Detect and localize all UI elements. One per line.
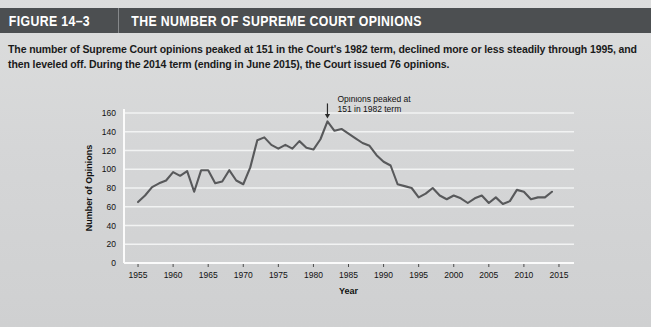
x-tick-label: 2005 [479,270,498,280]
figure-header-bar: FIGURE 14–3 THE NUMBER OF SUPREME COURT … [0,8,651,33]
x-tick-label: 2015 [550,270,569,280]
y-tick-label: 120 [102,146,116,156]
x-tick-label: 1975 [269,270,288,280]
x-tick-label: 1965 [199,270,218,280]
x-tick-label: 1990 [374,270,393,280]
x-tick-label: 1995 [409,270,428,280]
gridlines-group [124,113,574,263]
chart-area: 020406080100120140160 195519601965197019… [0,96,651,296]
y-tick-label: 160 [102,108,116,118]
y-axis-tick-labels: 020406080100120140160 [102,108,116,268]
y-tick-label: 80 [107,183,117,193]
annotation-line-2: 151 in 1982 term [337,104,401,114]
y-tick-label: 0 [111,258,116,268]
x-tick-label: 1980 [304,270,323,280]
y-axis-title: Number of Opinions [84,145,94,232]
peak-annotation: Opinions peaked at 151 in 1982 term [325,96,411,118]
x-axis-tick-labels: 1955196019651970197519801985199019952000… [129,270,569,280]
x-tick-label: 2000 [444,270,463,280]
x-tick-label: 1985 [339,270,358,280]
y-tick-label: 140 [102,127,116,137]
y-tick-label: 100 [102,164,116,174]
arrow-head [325,114,330,119]
data-line-series [138,121,552,204]
x-tick-label: 1955 [129,270,148,280]
y-tick-label: 40 [107,221,117,231]
x-axis-title: Year [339,286,359,296]
x-tick-label: 1960 [164,270,183,280]
figure-container: FIGURE 14–3 THE NUMBER OF SUPREME COURT … [0,0,651,327]
line-chart-svg: 020406080100120140160 195519601965197019… [0,96,651,296]
figure-number-label: FIGURE 14–3 [0,13,99,29]
y-tick-label: 20 [107,239,117,249]
annotation-line-1: Opinions peaked at [337,96,411,104]
x-tick-label: 2010 [514,270,533,280]
y-tick-label: 60 [107,202,117,212]
x-tick-label: 1970 [234,270,253,280]
figure-title: THE NUMBER OF SUPREME COURT OPINIONS [119,13,422,29]
figure-caption: The number of Supreme Court opinions pea… [8,42,642,72]
down-arrow-icon [325,103,330,118]
